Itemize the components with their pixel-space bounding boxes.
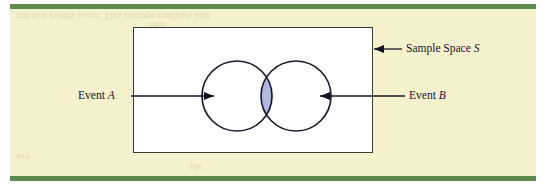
figure-canvas: our two events occur. This concept confu… [0, 0, 548, 190]
label-sample-space: Sample Space S [406, 42, 479, 54]
label-event-b-symbol: B [439, 89, 446, 101]
label-sample-space-symbol: S [474, 42, 480, 54]
label-event-b: Event B [409, 89, 446, 101]
label-event-a-text: Event [78, 89, 108, 101]
label-event-b-text: Event [409, 89, 439, 101]
label-event-a: Event A [78, 89, 115, 101]
label-sample-space-text: Sample Space [406, 42, 474, 54]
label-event-a-symbol: A [108, 89, 115, 101]
